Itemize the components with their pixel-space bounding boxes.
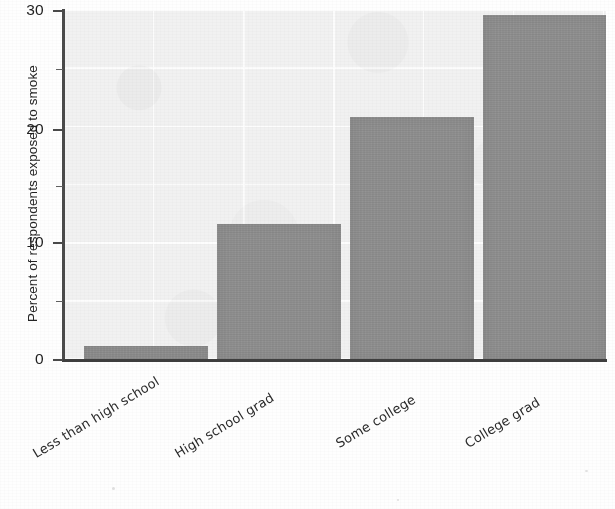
y-tick-mark-5 <box>56 301 63 302</box>
x-tick-label-college-grad: College grad <box>462 394 542 451</box>
y-tick-mark-20 <box>53 129 63 131</box>
y-tick-mark-10 <box>53 242 63 244</box>
bar-some-college <box>350 117 474 360</box>
scan-speck <box>112 487 115 490</box>
y-tick-mark-25 <box>56 69 63 70</box>
bar-less-than-high-school <box>84 346 208 360</box>
x-axis-line <box>62 359 607 362</box>
y-tick-mark-15 <box>56 186 63 187</box>
plot-area <box>63 11 606 360</box>
bar-high-school-grad <box>217 224 341 360</box>
y-tick-label-30: 30 <box>26 1 44 19</box>
y-tick-label-10: 10 <box>26 233 44 251</box>
y-tick-label-0: 0 <box>35 350 44 368</box>
x-tick-label-high-school-grad: High school grad <box>172 390 276 461</box>
bar-college-grad <box>483 15 606 361</box>
scan-speck <box>585 470 588 472</box>
x-tick-label-some-college: Some college <box>333 392 418 451</box>
bar-chart-figure: Percent of respondents exposed to smoke … <box>0 0 615 509</box>
y-tick-label-20: 20 <box>26 120 44 138</box>
y-tick-mark-0 <box>53 359 63 361</box>
scan-speck <box>397 499 399 501</box>
y-axis-title: Percent of respondents exposed to smoke <box>25 29 40 359</box>
y-tick-mark-30 <box>53 10 63 12</box>
x-tick-label-less-than-high-school: Less than high school <box>30 374 162 461</box>
